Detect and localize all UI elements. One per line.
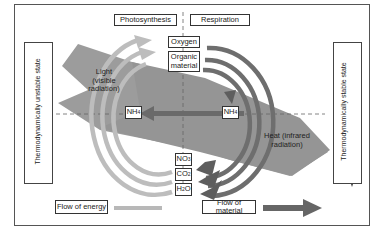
organic-material-box: Organic material <box>168 51 200 72</box>
light-label: Light (visible radiation) <box>84 68 124 94</box>
material-legend-arrow <box>263 199 322 217</box>
heat-label: Heat (infrared radiation) <box>259 132 315 149</box>
oxygen-box: Oxygen <box>168 36 200 48</box>
left-state-label: Thermodynamically unstable state <box>34 57 41 167</box>
right-state-box <box>333 42 362 184</box>
photosynthesis-header: Photosynthesis <box>114 14 177 26</box>
right-state-label: Thermodynamically stable state <box>340 57 347 167</box>
h2o-box: H2O <box>175 183 192 196</box>
respiration-header: Respiration <box>190 14 250 26</box>
no3-box: NO3 <box>175 153 192 166</box>
energy-legend-label: Flow of energy <box>55 200 108 214</box>
material-legend-label: Flow of material <box>202 200 256 214</box>
energy-legend-arrow <box>114 206 162 210</box>
nh4-left-box: NH4 <box>125 106 142 119</box>
co2-box: CO2 <box>175 168 192 181</box>
nh4-right-box: NH4 <box>222 106 239 119</box>
